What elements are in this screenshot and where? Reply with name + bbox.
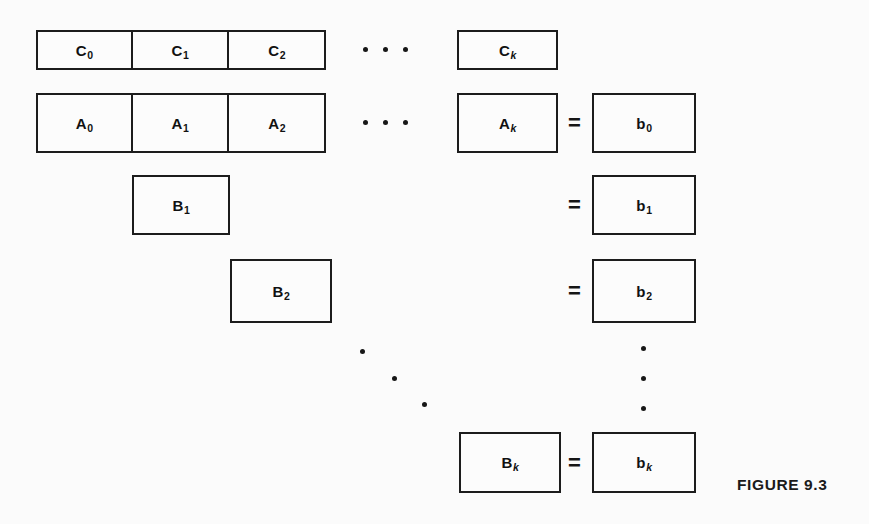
a-cell-1: A1 (133, 95, 230, 151)
B2-label: B2 (272, 284, 289, 299)
a-cell-0-label: A0 (76, 116, 93, 131)
a-cell-2-label: A2 (268, 116, 285, 131)
c-cell-0: C0 (38, 32, 133, 68)
b1-box: b1 (592, 175, 696, 235)
B2-box: B2 (230, 259, 332, 323)
equals-sign-row-k: = (568, 452, 581, 474)
diagonal-ellipsis-dot-1 (360, 349, 365, 354)
c-row-block: C0 C1 C2 (36, 30, 326, 70)
equals-sign-row-1: = (568, 194, 581, 216)
a-row-ellipsis-dot-2 (383, 120, 388, 125)
b0-label: b0 (636, 116, 651, 131)
c-k-label: Ck (499, 43, 516, 58)
b0-box: b0 (592, 93, 696, 153)
c-cell-2: C2 (229, 32, 324, 68)
c-cell-1: C1 (133, 32, 230, 68)
a-row-ellipsis-dot-3 (403, 120, 408, 125)
a-cell-0: A0 (38, 95, 133, 151)
b2-label: b2 (636, 284, 651, 299)
a-cell-2: A2 (229, 95, 324, 151)
a-row-ellipsis-dot-1 (363, 120, 368, 125)
Bk-box: Bk (459, 432, 561, 493)
equals-sign-row-2: = (568, 280, 581, 302)
c-cell-2-label: C2 (268, 43, 285, 58)
Bk-label: Bk (501, 455, 518, 470)
bk-box: bk (592, 432, 696, 493)
c-row-ellipsis-dot-2 (383, 47, 388, 52)
b2-box: b2 (592, 259, 696, 323)
c-k-box: Ck (457, 30, 558, 70)
equals-sign-row-0: = (568, 112, 581, 134)
figure-caption: FIGURE 9.3 (737, 476, 827, 494)
b1-label: b1 (636, 198, 651, 213)
figure-canvas: C0 C1 C2 Ck A0 A1 A2 Ak = b0 (0, 0, 869, 524)
c-row-ellipsis-dot-3 (403, 47, 408, 52)
vertical-ellipsis-dot-1 (641, 346, 646, 351)
bk-label: bk (636, 455, 651, 470)
B1-label: B1 (172, 198, 189, 213)
vertical-ellipsis-dot-3 (641, 406, 646, 411)
c-row-ellipsis-dot-1 (363, 47, 368, 52)
diagonal-ellipsis-dot-2 (392, 376, 397, 381)
c-cell-1-label: C1 (171, 43, 188, 58)
diagonal-ellipsis-dot-3 (422, 402, 427, 407)
a-row-block: A0 A1 A2 (36, 93, 326, 153)
vertical-ellipsis-dot-2 (641, 376, 646, 381)
a-k-box: Ak (457, 93, 558, 153)
c-cell-0-label: C0 (76, 43, 93, 58)
B1-box: B1 (132, 175, 230, 235)
a-cell-1-label: A1 (171, 116, 188, 131)
a-k-label: Ak (499, 116, 516, 131)
